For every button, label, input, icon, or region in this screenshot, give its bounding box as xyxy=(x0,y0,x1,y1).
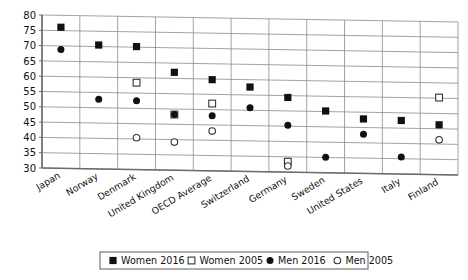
y-tick-label-55: 55 xyxy=(23,86,36,97)
y-tick-label-35: 35 xyxy=(23,147,36,158)
y-tick-label-65: 65 xyxy=(23,56,36,67)
legend-marker-filled-circle xyxy=(267,257,274,264)
data-point-men-2016-united-kingdom xyxy=(171,111,178,118)
data-point-women-2016-united-kingdom xyxy=(171,69,178,76)
y-tick-label-80: 80 xyxy=(23,10,36,21)
data-point-men-2016-germany xyxy=(284,122,291,129)
legend-label-men-2005: Men 2005 xyxy=(345,255,393,266)
legend-label-women-2016: Women 2016 xyxy=(121,255,185,266)
data-point-women-2016-finland xyxy=(435,121,442,128)
data-point-men-2016-united-states xyxy=(360,131,367,138)
data-point-men-2016-norway xyxy=(95,96,102,103)
y-tick-label-40: 40 xyxy=(23,132,36,143)
data-point-women-2016-norway xyxy=(95,41,102,48)
scatter-chart: 3035404550556065707580 JapanNorwayDenmar… xyxy=(0,0,468,280)
y-tick-label-75: 75 xyxy=(23,25,36,36)
data-point-women-2016-italy xyxy=(398,117,405,124)
legend-label-women-2005: Women 2005 xyxy=(200,255,264,266)
legend-marker-filled-square xyxy=(109,257,116,264)
data-point-men-2005-united-kingdom xyxy=(171,139,178,146)
data-point-women-2016-sweden xyxy=(322,107,329,114)
data-point-men-2005-germany xyxy=(285,163,292,170)
data-point-women-2005-denmark xyxy=(133,79,140,86)
data-point-women-2016-japan xyxy=(57,24,64,31)
chart-canvas: 3035404550556065707580 JapanNorwayDenmar… xyxy=(0,0,468,280)
data-point-women-2016-denmark xyxy=(133,43,140,50)
y-tick-label-50: 50 xyxy=(23,101,36,112)
y-tick-label-70: 70 xyxy=(23,40,36,51)
data-point-men-2016-oecd-average xyxy=(209,112,216,119)
data-point-men-2005-finland xyxy=(436,136,443,143)
y-tick-label-45: 45 xyxy=(23,117,36,128)
data-point-men-2016-denmark xyxy=(133,97,140,104)
y-tick-label-30: 30 xyxy=(23,163,36,174)
data-point-women-2005-oecd-average xyxy=(209,100,216,107)
data-point-women-2016-united-states xyxy=(360,115,367,122)
data-point-women-2016-switzerland xyxy=(246,83,253,90)
data-point-women-2016-germany xyxy=(284,94,291,101)
data-point-women-2016-oecd-average xyxy=(209,76,216,83)
data-point-women-2005-finland xyxy=(436,94,443,101)
data-point-men-2016-sweden xyxy=(322,154,329,161)
data-point-men-2016-switzerland xyxy=(247,104,254,111)
chart-legend: Women 2016Women 2005Men 2016Men 2005 xyxy=(100,252,393,269)
data-point-men-2016-japan xyxy=(57,46,64,53)
data-point-men-2005-denmark xyxy=(133,134,140,141)
legend-label-men-2016: Men 2016 xyxy=(278,255,326,266)
chart-background xyxy=(0,0,468,280)
data-point-men-2016-italy xyxy=(398,153,405,160)
data-point-men-2005-oecd-average xyxy=(209,128,216,135)
legend-marker-open-circle xyxy=(334,257,341,264)
y-tick-label-60: 60 xyxy=(23,71,36,82)
legend-marker-open-square xyxy=(188,257,195,264)
